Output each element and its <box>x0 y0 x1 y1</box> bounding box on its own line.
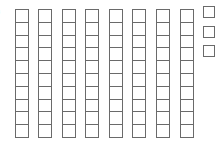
rod-cell <box>86 36 98 49</box>
rod-cell <box>16 48 28 61</box>
rod-cell <box>181 100 193 113</box>
rod-cell <box>133 125 145 137</box>
rod-cell <box>133 10 145 23</box>
rod-cell <box>133 36 145 49</box>
rod-cell <box>110 112 122 125</box>
rod-cell <box>86 23 98 36</box>
rod-cell <box>39 36 51 49</box>
rod-cell <box>39 10 51 23</box>
rod-cell <box>110 48 122 61</box>
rod-cell <box>133 61 145 74</box>
rod-cell <box>63 10 75 23</box>
rod-cell <box>16 112 28 125</box>
rod-cell <box>110 100 122 113</box>
rod-cell <box>110 125 122 137</box>
rod-cell <box>133 74 145 87</box>
unit-cube <box>203 45 215 57</box>
rod-cell <box>86 112 98 125</box>
tens-rod <box>15 9 29 138</box>
rod-cell <box>181 23 193 36</box>
rod-cell <box>86 74 98 87</box>
rod-cell <box>157 87 169 100</box>
rod-cell <box>39 74 51 87</box>
tens-rod <box>132 9 146 138</box>
rod-cell <box>39 61 51 74</box>
rod-cell <box>133 48 145 61</box>
rod-cell <box>39 23 51 36</box>
rod-cell <box>110 36 122 49</box>
tens-rod <box>38 9 52 138</box>
tens-rod <box>156 9 170 138</box>
unit-cube <box>203 6 215 18</box>
rod-cell <box>133 23 145 36</box>
rod-cell <box>63 36 75 49</box>
rod-cell <box>157 125 169 137</box>
rod-cell <box>110 74 122 87</box>
rod-cell <box>157 74 169 87</box>
rod-cell <box>110 10 122 23</box>
rod-cell <box>86 10 98 23</box>
rod-cell <box>39 48 51 61</box>
rod-cell <box>63 48 75 61</box>
rod-cell <box>181 36 193 49</box>
rod-cell <box>181 48 193 61</box>
unit-cube <box>203 26 215 38</box>
rod-cell <box>63 87 75 100</box>
rod-cell <box>86 61 98 74</box>
rod-cell <box>86 125 98 137</box>
rod-cell <box>63 74 75 87</box>
rod-cell <box>157 100 169 113</box>
rod-cell <box>16 10 28 23</box>
rod-cell <box>39 87 51 100</box>
rod-cell <box>181 74 193 87</box>
rod-cell <box>157 36 169 49</box>
tens-rod <box>85 9 99 138</box>
rod-cell <box>16 61 28 74</box>
rod-cell <box>157 112 169 125</box>
rod-cell <box>110 23 122 36</box>
rod-cell <box>181 87 193 100</box>
rod-cell <box>181 61 193 74</box>
rod-cell <box>181 10 193 23</box>
rod-cell <box>86 100 98 113</box>
rod-cell <box>157 48 169 61</box>
rod-cell <box>39 112 51 125</box>
rod-cell <box>16 125 28 137</box>
rod-cell <box>86 48 98 61</box>
rod-cell <box>63 112 75 125</box>
rod-cell <box>157 61 169 74</box>
rod-cell <box>63 125 75 137</box>
rod-cell <box>157 10 169 23</box>
rod-cell <box>86 87 98 100</box>
rod-cell <box>157 23 169 36</box>
rod-cell <box>16 36 28 49</box>
tens-rod <box>62 9 76 138</box>
tens-rod <box>109 9 123 138</box>
rod-cell <box>16 23 28 36</box>
rod-cell <box>133 87 145 100</box>
rod-cell <box>110 87 122 100</box>
rod-cell <box>110 61 122 74</box>
rod-cell <box>63 100 75 113</box>
rod-cell <box>16 74 28 87</box>
label-paren-fragment: ) <box>0 5 1 20</box>
rod-cell <box>63 61 75 74</box>
tens-rod <box>180 9 194 138</box>
rod-cell <box>133 112 145 125</box>
rod-cell <box>181 112 193 125</box>
rod-cell <box>39 125 51 137</box>
rod-cell <box>181 125 193 137</box>
rod-cell <box>16 87 28 100</box>
rod-cell <box>16 100 28 113</box>
rod-cell <box>63 23 75 36</box>
rod-cell <box>39 100 51 113</box>
rod-cell <box>133 100 145 113</box>
